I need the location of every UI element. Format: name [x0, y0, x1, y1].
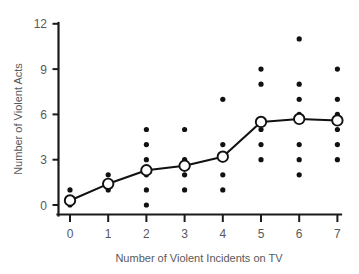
data-point: [335, 97, 340, 102]
x-axis-title: Number of Violent Incidents on TV: [115, 252, 283, 264]
x-tick-label: 6: [296, 227, 303, 241]
data-point: [144, 202, 149, 207]
data-point: [258, 157, 263, 162]
y-tick-label: 3: [40, 153, 47, 167]
data-point: [335, 67, 340, 72]
data-point: [258, 142, 263, 147]
mean-marker: [332, 115, 342, 125]
x-axis-tick-labels: 01234567: [67, 227, 341, 241]
mean-marker: [103, 179, 113, 189]
mean-marker: [141, 165, 151, 175]
data-point: [182, 172, 187, 177]
data-point: [297, 142, 302, 147]
y-tick-label: 0: [40, 199, 47, 213]
x-tick-label: 5: [258, 227, 265, 241]
data-point: [220, 142, 225, 147]
x-tick-label: 4: [219, 227, 226, 241]
data-point: [335, 127, 340, 132]
x-axis-ticks: [70, 215, 337, 223]
y-tick-label: 12: [34, 17, 48, 31]
y-axis-title: Number of Violent Acts: [12, 63, 24, 175]
data-point: [220, 97, 225, 102]
data-point: [144, 187, 149, 192]
y-tick-label: 9: [40, 63, 47, 77]
data-point: [67, 187, 72, 192]
x-tick-label: 3: [181, 227, 188, 241]
mean-marker: [294, 114, 304, 124]
data-point: [144, 127, 149, 132]
data-point: [297, 157, 302, 162]
mean-marker: [65, 195, 75, 205]
x-tick-label: 0: [67, 227, 74, 241]
data-point: [182, 187, 187, 192]
x-tick-label: 2: [143, 227, 150, 241]
data-point: [144, 142, 149, 147]
data-point: [220, 172, 225, 177]
data-point: [258, 82, 263, 87]
scatter-plot-svg: 036912 01234567 Number of Violent Incide…: [0, 0, 359, 274]
data-point: [106, 172, 111, 177]
data-point: [258, 67, 263, 72]
mean-marker: [256, 117, 266, 127]
data-point: [297, 97, 302, 102]
chart-figure: 036912 01234567 Number of Violent Incide…: [0, 0, 359, 274]
x-tick-label: 7: [334, 227, 341, 241]
mean-marker: [179, 161, 189, 171]
x-tick-label: 1: [105, 227, 112, 241]
y-axis-tick-labels: 036912: [34, 17, 48, 212]
data-point: [297, 82, 302, 87]
y-tick-label: 6: [40, 108, 47, 122]
data-point: [297, 172, 302, 177]
mean-marker: [218, 151, 228, 161]
data-point: [182, 127, 187, 132]
data-point: [220, 187, 225, 192]
data-point: [335, 157, 340, 162]
data-point: [335, 142, 340, 147]
data-point: [297, 36, 302, 41]
data-point: [144, 157, 149, 162]
